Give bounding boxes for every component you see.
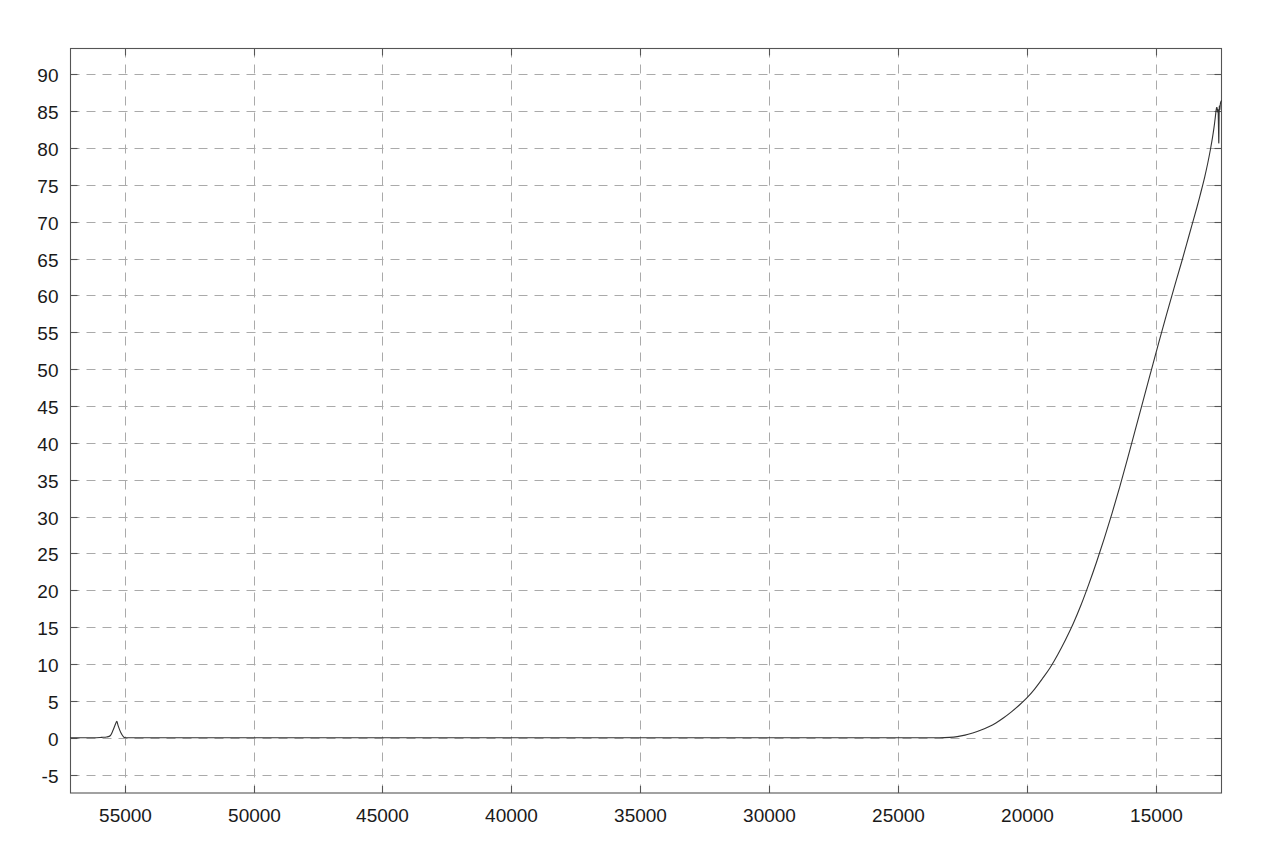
x-tick-label: 35000 <box>614 805 667 826</box>
y-tick-label: 15 <box>37 618 58 639</box>
x-tick-label: 55000 <box>99 805 152 826</box>
x-tick-label: 30000 <box>743 805 796 826</box>
x-tick-label: 40000 <box>485 805 538 826</box>
x-axis-tick-labels: 5500050000450004000035000300002500020000… <box>99 805 1183 826</box>
y-tick-label: 35 <box>37 471 58 492</box>
y-tick-label: 20 <box>37 581 58 602</box>
x-tick-label: 25000 <box>872 805 925 826</box>
x-tick-label: 45000 <box>356 805 409 826</box>
spectrum-chart: -5051015202530354045505560657075808590 5… <box>0 0 1261 856</box>
x-tick-label: 15000 <box>1130 805 1183 826</box>
y-tick-label: 25 <box>37 544 58 565</box>
y-tick-label: -5 <box>42 766 59 787</box>
x-tick-label: 20000 <box>1001 805 1054 826</box>
y-tick-label: 60 <box>37 286 58 307</box>
y-tick-label: 30 <box>37 508 58 529</box>
y-tick-label: 55 <box>37 323 58 344</box>
y-tick-label: 70 <box>37 213 58 234</box>
y-tick-label: 45 <box>37 397 58 418</box>
y-tick-label: 5 <box>48 692 59 713</box>
y-tick-label: 65 <box>37 250 58 271</box>
y-tick-label: 50 <box>37 360 58 381</box>
x-tick-label: 50000 <box>228 805 281 826</box>
chart-canvas: -5051015202530354045505560657075808590 5… <box>0 0 1261 856</box>
y-tick-label: 80 <box>37 139 58 160</box>
y-tick-label: 85 <box>37 102 58 123</box>
y-tick-label: 0 <box>48 729 59 750</box>
chart-background <box>0 0 1261 856</box>
y-tick-label: 90 <box>37 65 58 86</box>
y-tick-label: 10 <box>37 655 58 676</box>
y-tick-label: 75 <box>37 176 58 197</box>
y-tick-label: 40 <box>37 434 58 455</box>
